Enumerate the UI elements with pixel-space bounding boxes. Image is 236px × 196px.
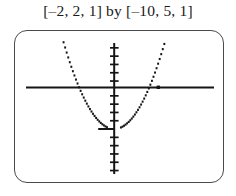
curve-pixel [84,100,86,102]
graph-canvas [15,31,225,184]
curve-pixel [140,103,142,105]
x-axis-tick-mark [157,86,160,89]
curve-pixel [89,108,91,110]
curve-pixel [78,86,80,88]
curve-pixel [91,110,93,112]
y-axis [110,43,119,174]
x-axis [26,86,214,89]
curve-pixel [142,101,144,103]
curve-pixel [157,63,159,65]
curve-pixel [163,43,165,45]
curve-pixel [139,106,141,108]
curve-pixel [145,94,147,96]
curve-pixel [70,66,72,68]
curve-pixel [63,41,65,43]
curve-pixel [66,51,68,53]
figure-root: [–2, 2, 1] by [–10, 5, 1] [0,0,236,196]
curve-pixel [137,109,139,111]
curve-pixel [69,61,71,63]
curve-pixel [135,111,137,113]
curve-pixel [134,113,136,115]
curve-pixel [154,72,156,74]
curve-pixel [132,116,134,118]
curve-pixel [92,113,94,115]
curve-pixel [72,70,74,72]
curve-pixel [80,90,82,92]
curve-pixel [75,78,77,80]
curve-pixel [156,67,158,69]
curve-pixel [64,46,66,48]
curve-pixel [73,74,75,76]
viewing-window-caption: [–2, 2, 1] by [–10, 5, 1] [0,2,236,20]
curve-pixel [149,84,151,86]
curve-pixel [131,117,133,119]
curve-pixel [77,82,79,84]
curve-pixel [86,103,88,105]
curve-pixel [94,115,96,117]
curve-pixel [159,58,161,60]
graph-plot-area [15,31,225,184]
curve-pixel [153,76,155,78]
curve-pixel [67,56,69,58]
curve-pixel [81,93,83,95]
curve-pixel [106,126,108,128]
curve-pixel [83,97,85,99]
curve-pixel [143,98,145,100]
curve-pixel [146,91,148,93]
curve-pixel [151,80,153,82]
curve-pixel [162,48,164,50]
calculator-screen-frame [14,30,224,183]
curve-pixel [148,87,150,89]
curve-pixel [160,53,162,55]
curve-pixel [87,105,89,107]
